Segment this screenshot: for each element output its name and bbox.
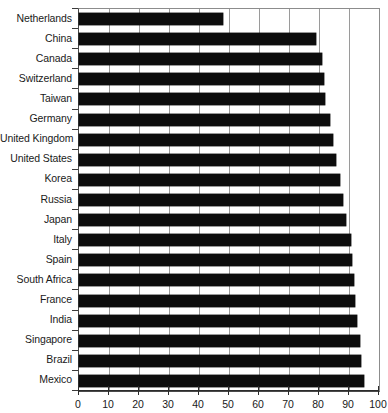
bar [79,73,324,85]
y-axis-tick [72,229,78,230]
category-label: Japan [0,214,72,225]
bar [79,13,223,25]
category-label: China [0,33,72,44]
bar [79,335,360,347]
bar [79,375,364,387]
category-label: Taiwan [0,93,72,104]
y-axis-tick [72,149,78,150]
x-axis-tick-label: 100 [358,398,388,410]
bar [79,254,352,266]
category-label: United Kingdom [0,133,72,144]
category-label: Netherlands [0,13,72,24]
bar [79,53,322,65]
plot-area [78,8,380,392]
chart-title [110,0,330,2]
bar [79,93,325,105]
bar [79,355,361,367]
bar [79,33,316,45]
category-label: Spain [0,254,72,265]
y-axis-tick [72,8,78,9]
y-axis-tick [72,330,78,331]
y-axis-tick [72,289,78,290]
y-axis-tick [72,88,78,89]
category-label: Mexico [0,374,72,385]
x-axis-tick [108,386,109,395]
bar [79,134,333,146]
category-label: Switzerland [0,73,72,84]
bar [79,154,336,166]
bar [79,274,354,286]
y-axis-tick [72,189,78,190]
bar-series [79,9,379,391]
category-label: France [0,294,72,305]
bar [79,174,340,186]
x-axis-tick [258,386,259,395]
y-axis-tick [72,68,78,69]
y-axis-tick [72,109,78,110]
x-axis-tick [228,386,229,395]
y-axis-tick [72,129,78,130]
x-axis-tick [378,386,379,395]
x-axis: 0102030405060708090100 [78,390,379,412]
category-axis-labels: NetherlandsChinaCanadaSwitzerlandTaiwanG… [0,8,72,390]
y-axis-tick [72,370,78,371]
x-axis-tick [78,386,79,395]
category-label: Germany [0,113,72,124]
bar [79,194,343,206]
bar [79,315,357,327]
y-axis-tick [72,249,78,250]
x-axis-tick [318,386,319,395]
x-axis-tick [288,386,289,395]
y-axis-tick [72,28,78,29]
y-axis-tick [72,350,78,351]
category-label: India [0,314,72,325]
x-axis-tick [168,386,169,395]
category-label: South Africa [0,274,72,285]
bar-chart: NetherlandsChinaCanadaSwitzerlandTaiwanG… [0,0,388,413]
y-axis-tick [72,310,78,311]
bar [79,214,346,226]
y-axis-tick [72,48,78,49]
category-label: Russia [0,194,72,205]
bar [79,295,355,307]
x-axis-tick [348,386,349,395]
bar [79,234,351,246]
category-label: Korea [0,173,72,184]
y-axis-tick [72,390,78,391]
category-label: Canada [0,53,72,64]
y-axis-tick [72,209,78,210]
bar [79,114,330,126]
category-label: United States [0,153,72,164]
category-label: Singapore [0,334,72,345]
x-axis-tick [198,386,199,395]
category-label: Italy [0,234,72,245]
y-axis-tick [72,169,78,170]
x-axis-tick [138,386,139,395]
category-label: Brazil [0,354,72,365]
y-axis-tick [72,269,78,270]
